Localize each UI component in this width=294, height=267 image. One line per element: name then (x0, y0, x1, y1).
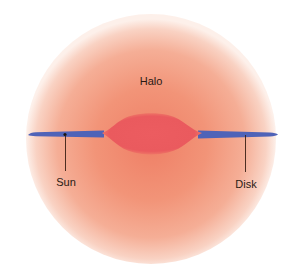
sun-label: Sun (56, 176, 76, 188)
galaxy-diagram: Halo Sun Disk (0, 0, 294, 267)
galaxy-diagram-canvas: Halo Sun Disk (0, 0, 294, 267)
sun-marker (63, 133, 66, 136)
halo-label: Halo (140, 75, 163, 87)
disk-label: Disk (235, 178, 257, 190)
